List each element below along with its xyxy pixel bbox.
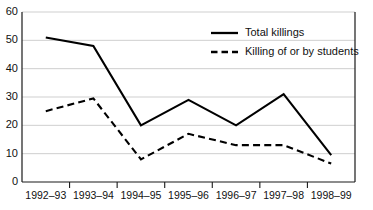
x-tick-label: 1997–98 [263,189,304,201]
x-tick-label: 1993–94 [73,189,114,201]
legend-label-killing-of-or-by-students: Killing of or by students [245,45,359,57]
y-tick-label: 30 [6,90,18,102]
y-tick-label: 10 [6,147,18,159]
y-tick-label: 50 [6,33,18,45]
chart-background [0,0,373,210]
y-tick-label: 0 [12,175,18,187]
y-tick-label: 60 [6,5,18,17]
legend-label-total-killings: Total killings [245,26,305,38]
x-tick-label: 1992–93 [25,189,66,201]
chart-canvas: 60 50 40 30 20 10 0 1992–93 1993–94 1994… [0,0,373,210]
x-tick-label: 1998–99 [311,189,352,201]
x-tick-label: 1994–95 [120,189,161,201]
y-tick-label: 20 [6,118,18,130]
line-chart: 60 50 40 30 20 10 0 1992–93 1993–94 1994… [0,0,373,210]
y-tick-label: 40 [6,62,18,74]
x-axis-tick-labels: 1992–93 1993–94 1994–95 1995–96 1996–97 … [25,189,351,201]
x-tick-label: 1995–96 [168,189,209,201]
x-tick-label: 1996–97 [216,189,257,201]
